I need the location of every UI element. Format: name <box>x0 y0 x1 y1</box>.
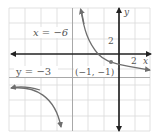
horizontal-asymptote-label: y = −3 <box>15 66 51 77</box>
rational-function-graph: x = −6 y = −3 (−1, −1) 2 2 x y <box>0 0 157 137</box>
left-branch-curve-lower <box>12 88 61 127</box>
y-tick-label: 2 <box>108 36 114 46</box>
x-axis-label: x <box>143 56 148 66</box>
right-branch-curve <box>81 10 150 70</box>
right-branch-curve-top <box>81 9 85 24</box>
y-axis-label: y <box>123 7 130 17</box>
point-label: (−1, −1) <box>75 67 114 77</box>
vertical-asymptote-label: x = −6 <box>33 27 69 38</box>
point-marker <box>109 60 113 64</box>
x-tick-label: 2 <box>131 56 137 66</box>
